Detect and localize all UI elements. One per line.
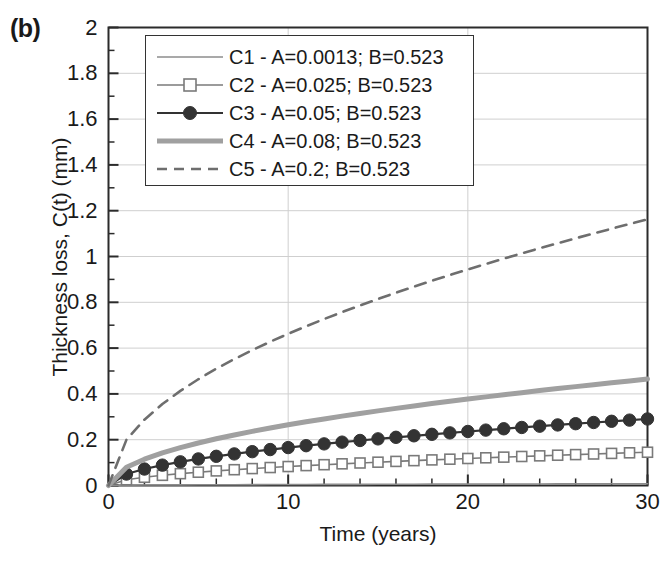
series-marker (498, 423, 510, 435)
series-marker (300, 439, 312, 451)
series-marker (211, 466, 221, 476)
series-marker (499, 452, 509, 462)
series-marker (192, 453, 204, 465)
y-tick-label: 2 (8, 15, 98, 41)
series-marker (228, 448, 240, 460)
x-tick-label: 10 (248, 489, 328, 515)
series-marker (354, 434, 366, 446)
series-marker (463, 453, 473, 463)
series-marker (409, 456, 419, 466)
series-marker (569, 417, 581, 429)
series-marker (625, 448, 635, 458)
legend-item[interactable]: C3 - A=0.05; B=0.523 (146, 98, 473, 128)
series-marker (408, 430, 420, 442)
y-tick-label: 1.4 (8, 152, 98, 178)
legend-item[interactable]: C5 - A=0.2; B=0.523 (146, 154, 473, 184)
series-marker (138, 463, 150, 475)
series-marker (373, 457, 383, 467)
series-marker (193, 467, 203, 477)
series-marker (264, 443, 276, 455)
series-marker (623, 414, 635, 426)
series-marker (551, 419, 563, 431)
series-marker (283, 462, 293, 472)
series-marker (535, 451, 545, 461)
series-marker (265, 463, 275, 473)
series-marker (390, 431, 402, 443)
y-tick-label: 0.6 (8, 335, 98, 361)
series-marker (319, 460, 329, 470)
series-marker (156, 459, 168, 471)
series-marker (282, 441, 294, 453)
series-marker (427, 455, 437, 465)
y-tick-label: 1.6 (8, 106, 98, 132)
figure-panel-b: (b) Thickness loss, C(t) (mm) Time (year… (0, 0, 669, 563)
y-tick-label: 0.4 (8, 381, 98, 407)
x-tick-label: 0 (69, 489, 149, 515)
legend-swatch-c2-icon (155, 74, 225, 96)
y-tick-label: 0.2 (8, 427, 98, 453)
series-line (109, 419, 648, 486)
series-marker (445, 454, 455, 464)
x-tick-label: 30 (608, 489, 669, 515)
series-marker (571, 450, 581, 460)
series-marker (336, 436, 348, 448)
series-marker (318, 438, 330, 450)
series-marker (553, 450, 563, 460)
series-marker (246, 445, 258, 457)
series-marker (301, 461, 311, 471)
series-marker (587, 416, 599, 428)
series-marker (607, 448, 617, 458)
legend: C1 - A=0.0013; B=0.523C2 - A=0.025; B=0.… (145, 35, 474, 186)
series-marker (516, 421, 528, 433)
x-tick-label: 20 (428, 489, 508, 515)
series-marker (480, 424, 492, 436)
series-marker (589, 449, 599, 459)
legend-label: C3 - A=0.05; B=0.523 (229, 103, 421, 123)
series-marker (641, 413, 653, 425)
legend-item[interactable]: C4 - A=0.08; B=0.523 (146, 126, 473, 156)
series-marker (175, 469, 185, 479)
series-marker (337, 459, 347, 469)
series-marker (372, 433, 384, 445)
y-tick-label: 1 (8, 244, 98, 270)
series-marker (229, 465, 239, 475)
series-marker (444, 427, 456, 439)
series-marker (426, 428, 438, 440)
legend-label: C5 - A=0.2; B=0.523 (229, 159, 410, 179)
legend-swatch-c5-icon (155, 158, 225, 180)
series-marker (605, 415, 617, 427)
series-marker (462, 425, 474, 437)
legend-label: C4 - A=0.08; B=0.523 (229, 131, 421, 151)
legend-swatch-c3-icon (155, 102, 225, 124)
series-marker (247, 464, 257, 474)
legend-swatch-c1-icon (155, 46, 225, 68)
series-marker (391, 456, 401, 466)
legend-label: C2 - A=0.025; B=0.523 (229, 75, 433, 95)
y-tick-label: 1.2 (8, 198, 98, 224)
legend-swatch-c4-icon (155, 130, 225, 152)
y-tick-label: 0.8 (8, 289, 98, 315)
series-marker (643, 447, 653, 457)
series-marker (481, 453, 491, 463)
legend-item[interactable]: C1 - A=0.0013; B=0.523 (146, 42, 473, 72)
series-marker (174, 456, 186, 468)
series-marker (210, 450, 222, 462)
series-marker (517, 451, 527, 461)
y-tick-label: 1.8 (8, 60, 98, 86)
legend-label: C1 - A=0.0013; B=0.523 (229, 47, 444, 67)
series-marker (355, 458, 365, 468)
series-c2 (109, 447, 653, 485)
legend-item[interactable]: C2 - A=0.025; B=0.523 (146, 70, 473, 100)
series-marker (534, 420, 546, 432)
